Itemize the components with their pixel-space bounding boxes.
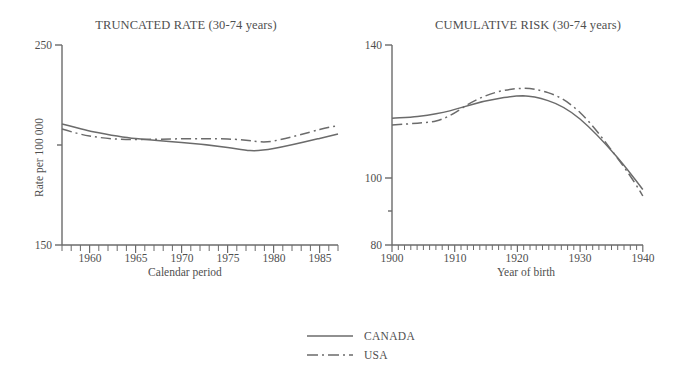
y-tick-label-80: 80	[348, 239, 382, 251]
x-tick-label-1975: 1975	[212, 252, 244, 264]
legend-label-canada: CANADA	[364, 330, 415, 342]
legend-item-canada: CANADA	[306, 326, 486, 345]
x-tick-label-1910: 1910	[439, 252, 471, 264]
y-tick-label-250-left: 250	[14, 39, 52, 51]
y-tick-label-140: 140	[348, 39, 382, 51]
chart-legend: CANADA USA	[306, 326, 486, 364]
x-tick-label-1960: 1960	[74, 252, 106, 264]
y-axis-label-left: Rate per 100 000	[33, 118, 45, 197]
x-minor-ticks-right	[392, 245, 643, 252]
x-tick-label-1900: 1900	[376, 252, 408, 264]
chart-panel-truncated-rate: TRUNCATED RATE (30-74 years)	[0, 0, 350, 300]
legend-item-usa: USA	[306, 345, 486, 364]
x-tick-label-1940: 1940	[627, 252, 659, 264]
figure-canvas: TRUNCATED RATE (30-74 years)	[0, 0, 698, 378]
x-tick-label-1920: 1920	[501, 252, 533, 264]
x-axis-label-right: Year of birth	[348, 266, 698, 278]
y-tick-label-150-left: 150	[14, 239, 52, 251]
series-line-usa-cumulative-risk	[392, 88, 643, 196]
legend-swatch-dash-dot-line	[306, 350, 354, 360]
x-tick-label-1965: 1965	[120, 252, 152, 264]
legend-swatch-solid-line	[306, 331, 354, 341]
x-axis-label-left: Calendar period	[0, 266, 350, 278]
x-tick-label-1980: 1980	[258, 252, 290, 264]
y-tick-label-100: 100	[348, 172, 382, 184]
legend-label-usa: USA	[364, 349, 388, 361]
x-tick-label-1985: 1985	[304, 252, 336, 264]
chart-panel-cumulative-risk: CUMULATIVE RISK (30-74 years)	[348, 0, 698, 300]
x-tick-label-1930: 1930	[564, 252, 596, 264]
x-tick-label-1970: 1970	[166, 252, 198, 264]
